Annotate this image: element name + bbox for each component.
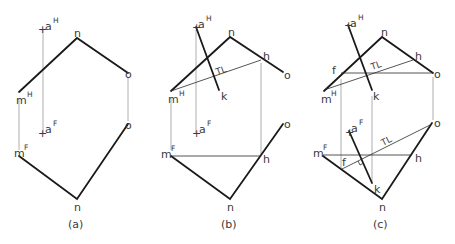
- label-h-top: h: [263, 50, 270, 63]
- label-aH: a: [45, 20, 52, 33]
- label-o-top: o: [434, 68, 441, 81]
- label-h-bot: h: [263, 153, 270, 166]
- plane-front-view: [19, 124, 128, 199]
- label-mH: m: [16, 94, 27, 107]
- perpendicular-line-ak: [196, 27, 219, 90]
- label-n-top: n: [74, 27, 81, 40]
- label-aF: a: [199, 123, 206, 136]
- label-aH-sup: H: [53, 16, 59, 25]
- label-aF: a: [45, 123, 52, 136]
- panel-b: + a H + a F n h o TL m H k m F h o n (b): [161, 14, 291, 231]
- label-aF-sup: F: [359, 118, 363, 127]
- label-mH-sup: H: [27, 90, 33, 99]
- caption-a: (a): [68, 218, 83, 231]
- label-mH-sup: H: [179, 89, 185, 98]
- plane-top-view: [171, 37, 283, 91]
- label-aH-sup: H: [206, 14, 212, 23]
- label-n-bot: n: [227, 201, 234, 214]
- caption-c: (c): [373, 218, 388, 231]
- label-n-top: n: [381, 26, 388, 39]
- label-mH-sup: H: [331, 89, 337, 98]
- label-n-top: n: [228, 26, 235, 39]
- label-mF-sup: F: [24, 143, 28, 152]
- label-k-top: k: [373, 90, 380, 103]
- label-true-length-bot: TL: [378, 134, 393, 148]
- label-o-top: o: [284, 69, 291, 82]
- label-aH-sup: H: [358, 13, 364, 22]
- label-n-bot: n: [74, 201, 81, 214]
- label-o-bot: o: [125, 119, 132, 132]
- caption-b: (b): [221, 218, 237, 231]
- label-h-top: h: [415, 50, 422, 63]
- label-true-length-top: TL: [368, 59, 382, 72]
- label-aH: a: [350, 17, 357, 30]
- label-aF-sup: F: [207, 119, 211, 128]
- true-length-line-top: [324, 60, 413, 90]
- label-h-bot: h: [415, 152, 422, 165]
- label-k-bot: k: [374, 183, 381, 196]
- label-k-top: k: [221, 90, 228, 103]
- label-f-top: f: [332, 64, 337, 77]
- label-aF-sup: F: [53, 119, 57, 128]
- true-length-line-top: [171, 60, 261, 91]
- label-o-bot: o: [284, 118, 291, 131]
- panel-c: + a H + a F n h o f TL m H k m F h o f T…: [313, 13, 441, 231]
- panel-a: + a H + a F n o m H m F o n (a): [14, 16, 132, 231]
- label-aH: a: [198, 18, 205, 31]
- descriptive-geometry-figure: + a H + a F n o m H m F o n (a) + a H + …: [0, 0, 455, 244]
- label-mH: m: [168, 93, 179, 106]
- label-mF-sup: F: [171, 144, 175, 153]
- label-o-top: o: [125, 68, 132, 81]
- label-o-bot: o: [434, 117, 441, 130]
- plane-top-view: [19, 38, 128, 92]
- perpendicular-line-ak-top: [348, 25, 372, 90]
- label-n-bot: n: [379, 201, 386, 214]
- label-mF-sup: F: [323, 143, 327, 152]
- label-aF: a: [351, 122, 358, 135]
